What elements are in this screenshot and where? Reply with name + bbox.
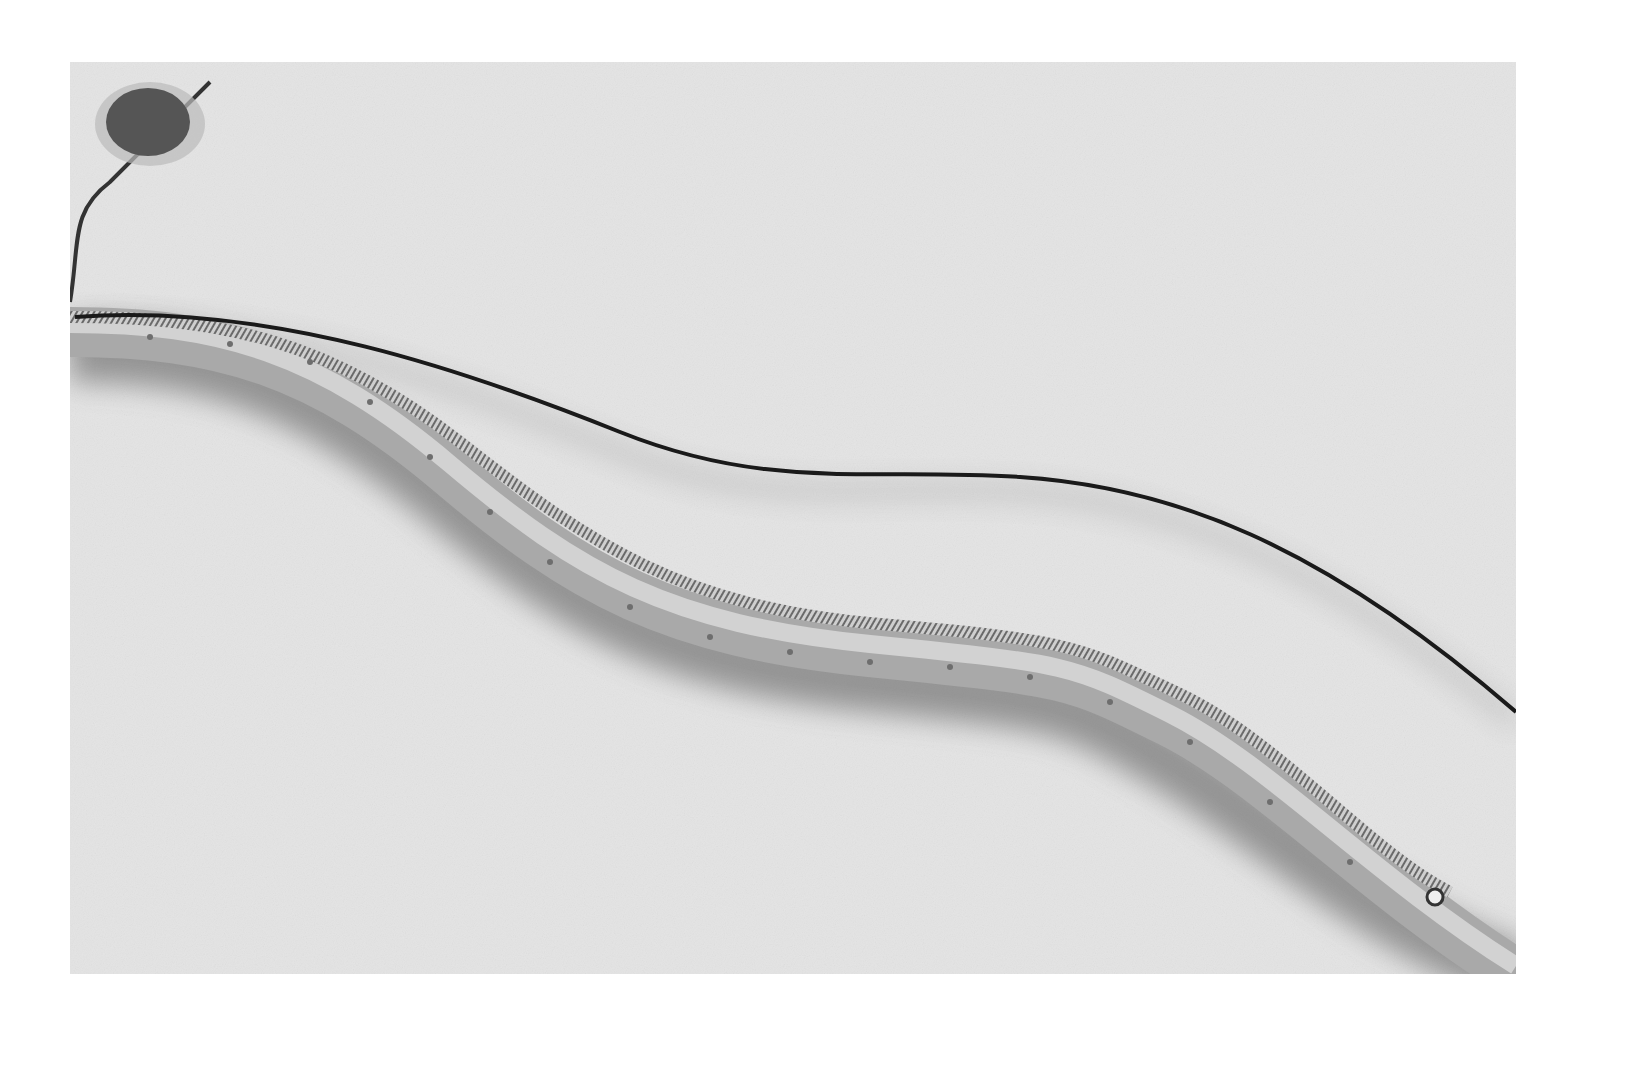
tip-ring — [1427, 889, 1443, 905]
catheter-illustration — [70, 62, 1516, 974]
port-disc — [106, 88, 190, 156]
photograph — [70, 62, 1516, 974]
